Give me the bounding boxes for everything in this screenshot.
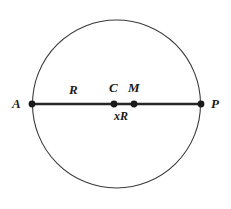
point-m-dot bbox=[131, 101, 138, 108]
segment-label-radius: R bbox=[69, 83, 78, 96]
point-p-label: P bbox=[211, 97, 219, 110]
point-a-label: A bbox=[12, 97, 21, 110]
point-m-label: M bbox=[128, 81, 140, 94]
point-a-dot bbox=[29, 101, 36, 108]
geometry-diagram bbox=[0, 0, 231, 209]
point-c-label: C bbox=[109, 81, 118, 94]
segment-label-xr: xR bbox=[114, 110, 128, 122]
point-p-dot bbox=[198, 101, 205, 108]
point-c-dot bbox=[111, 101, 118, 108]
